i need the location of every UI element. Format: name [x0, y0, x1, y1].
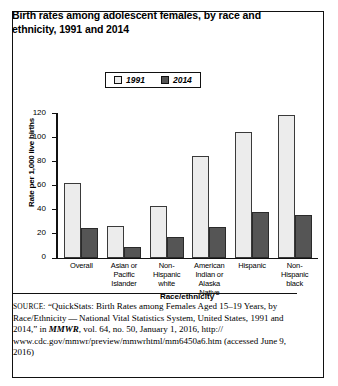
- source-note: SOURCE: “QuickStats: Birth Rates among F…: [13, 301, 305, 359]
- bar-2014: [209, 227, 226, 257]
- source-prefix: SOURCE:: [13, 302, 46, 311]
- source-line-1: “QuickStats: Birth Rates among Females A…: [46, 301, 266, 311]
- x-category-label: Hispanic: [231, 261, 274, 270]
- legend-swatch-2014-icon: [161, 76, 169, 84]
- legend-item-1991: 1991: [114, 75, 145, 85]
- x-category-label: Non-Hispanicblack: [273, 261, 316, 288]
- bar-1991: [192, 156, 209, 257]
- figure-title: Birth rates among adolescent females, by…: [12, 9, 300, 36]
- y-tick-0: 0: [52, 258, 56, 259]
- bar-1991: [64, 183, 81, 257]
- x-axis-category-labels: OverallAsian orPacificIslanderNon-Hispan…: [56, 261, 318, 295]
- bar-1991: [278, 115, 295, 257]
- legend-item-2014: 2014: [161, 75, 192, 85]
- y-tick-label-0: 0: [42, 252, 46, 261]
- bar-chart: Rate per 1,000 live births 1201008060402…: [14, 100, 322, 300]
- bar-group: [231, 114, 274, 258]
- bar-group: [188, 114, 231, 258]
- source-line-3b: , vol. 64, no. 50, January 1, 2016, http…: [79, 324, 223, 334]
- bar-1991: [107, 226, 124, 257]
- y-tick-label-120: 120: [33, 108, 46, 117]
- y-tick-label-20: 20: [37, 228, 46, 237]
- y-tick-60: 60: [52, 185, 56, 186]
- y-tick-label-40: 40: [37, 204, 46, 213]
- bar-2014: [81, 228, 98, 257]
- x-category-label: Non-Hispanicwhite: [145, 261, 188, 288]
- source-journal: MMWR: [49, 324, 79, 334]
- source-line-4: www.cdc.gov/mmwr/preview/mmwrhtml/mm6450…: [13, 336, 258, 346]
- bar-2014: [252, 212, 269, 258]
- figure-page: Birth rates among adolescent females, by…: [0, 0, 338, 386]
- x-category-label: Overall: [60, 261, 103, 270]
- bar-2014: [295, 215, 312, 257]
- y-tick-label-100: 100: [33, 132, 46, 141]
- x-category-label: Asian orPacificIslander: [103, 261, 146, 288]
- legend-label-2014: 2014: [173, 75, 192, 85]
- bar-1991: [235, 132, 252, 257]
- y-tick-label-60: 60: [37, 180, 46, 189]
- y-tick-label-80: 80: [37, 156, 46, 165]
- chart-legend: 1991 2014: [105, 72, 201, 88]
- y-tick-120: 120: [52, 113, 56, 114]
- bar-group: [60, 114, 103, 258]
- plot-area: 120100806040200: [56, 113, 318, 259]
- source-divider: [13, 293, 297, 294]
- y-axis-title: Rate per 1,000 live births: [27, 103, 36, 223]
- legend-label-1991: 1991: [126, 75, 145, 85]
- bar-group: [145, 114, 188, 258]
- y-tick-100: 100: [52, 137, 56, 138]
- bar-group: [273, 114, 316, 258]
- y-tick-20: 20: [52, 233, 56, 234]
- y-axis-line: [56, 113, 58, 259]
- legend-swatch-1991-icon: [114, 76, 122, 84]
- x-axis-line: [56, 258, 318, 260]
- bar-group: [103, 114, 146, 258]
- bar-2014: [124, 247, 141, 258]
- y-tick-40: 40: [52, 209, 56, 210]
- bar-2014: [167, 237, 184, 257]
- bar-1991: [150, 206, 167, 258]
- y-tick-80: 80: [52, 161, 56, 162]
